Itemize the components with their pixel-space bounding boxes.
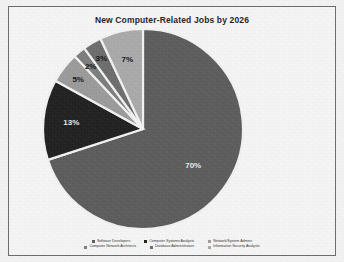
legend-swatch-icon [84,246,87,249]
pie-slice-value-label: 13% [63,118,79,127]
legend-item-label: Network/System Admins [213,240,252,244]
legend-item-label: Software Developers [97,240,130,244]
pie-svg: 70%13%5%2%3%7% [39,25,247,233]
legend-item-label: Database Administrators [155,245,194,249]
legend-swatch-icon [150,246,153,249]
figure-canvas: New Computer-Related Jobs by 2026 70%13%… [0,0,344,262]
legend-item[interactable]: Database Administrators [143,245,201,249]
legend-item[interactable]: Computer Systems Analysts [137,240,201,244]
legend-item[interactable]: Network/System Admins [201,240,259,244]
legend-item-label: Computer Network Architects [89,245,136,249]
pie-slices [43,29,243,229]
legend-swatch-icon [208,246,211,249]
pie-slice-value-label: 7% [122,55,134,64]
chart-title: New Computer-Related Jobs by 2026 [9,15,335,25]
legend-item-label: Computer Systems Analysts [149,240,194,244]
chart-legend: Software DevelopersComputer Systems Anal… [9,240,335,249]
pie-slice-value-label: 5% [72,75,84,84]
chart-frame: New Computer-Related Jobs by 2026 70%13%… [8,6,336,256]
pie-chart: 70%13%5%2%3%7% [39,25,247,233]
legend-item[interactable]: Software Developers [85,240,137,244]
legend-row: Software DevelopersComputer Systems Anal… [85,240,259,244]
chart-inner: New Computer-Related Jobs by 2026 70%13%… [9,7,335,255]
legend-row: Computer Network ArchitectsDatabase Admi… [77,245,266,249]
legend-item[interactable]: Information Security Analysts [201,245,266,249]
legend-swatch-icon [92,240,95,243]
legend-swatch-icon [208,240,211,243]
legend-swatch-icon [144,240,147,243]
pie-slice-value-label: 3% [96,54,108,63]
pie-slice-value-label: 70% [185,161,201,170]
legend-item[interactable]: Computer Network Architects [77,245,143,249]
legend-item-label: Information Security Analysts [213,245,259,249]
